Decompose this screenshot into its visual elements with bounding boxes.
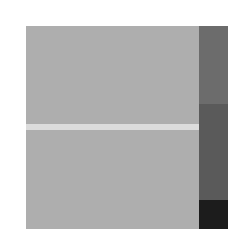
strip-top xyxy=(199,26,228,104)
strip-bottom xyxy=(199,200,228,229)
strip-middle xyxy=(199,104,228,200)
light-band xyxy=(26,124,199,130)
